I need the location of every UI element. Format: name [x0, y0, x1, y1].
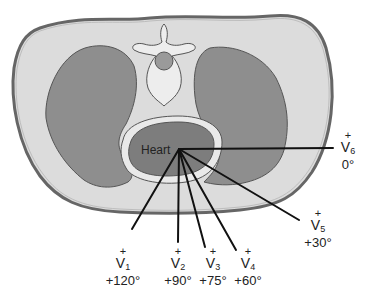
lead-label-v2: + V2 +90° — [160, 246, 196, 288]
lead-letter: V — [311, 217, 320, 233]
lead-letter: V — [171, 255, 180, 271]
lead-letter: V — [116, 255, 125, 271]
lead-number: 2 — [180, 262, 185, 272]
lead-number: 4 — [250, 262, 255, 272]
lead-label-v5: + V5 +30° — [300, 208, 336, 250]
lead-letter: V — [206, 255, 215, 271]
lead-letter: V — [341, 139, 350, 155]
lead-label-v6: + V6 0° — [335, 130, 361, 172]
lead-line-v2 — [178, 149, 179, 242]
heart-label: Heart — [141, 143, 170, 157]
spinal-cord — [155, 52, 173, 70]
lead-angle: +120° — [104, 274, 142, 288]
lead-label-v3: + V3 +75° — [195, 246, 231, 288]
lead-name: V2 — [160, 256, 196, 274]
lead-number: 3 — [215, 262, 220, 272]
lead-number: 5 — [320, 224, 325, 234]
lead-name: V6 — [335, 140, 361, 158]
lead-angle: 0° — [335, 158, 361, 172]
lead-angle: +60° — [230, 274, 266, 288]
lead-angle: +30° — [300, 236, 336, 250]
lead-letter: V — [241, 255, 250, 271]
lead-name: V3 — [195, 256, 231, 274]
lead-line-v6 — [179, 148, 333, 149]
lead-name: V1 — [104, 256, 142, 274]
lead-angle: +75° — [195, 274, 231, 288]
lead-number: 6 — [350, 146, 355, 156]
lead-name: V5 — [300, 218, 336, 236]
lead-label-v1: + V1 +120° — [104, 246, 142, 288]
lead-angle: +90° — [160, 274, 196, 288]
lead-name: V4 — [230, 256, 266, 274]
lead-number: 1 — [125, 262, 130, 272]
lead-label-v4: + V4 +60° — [230, 246, 266, 288]
